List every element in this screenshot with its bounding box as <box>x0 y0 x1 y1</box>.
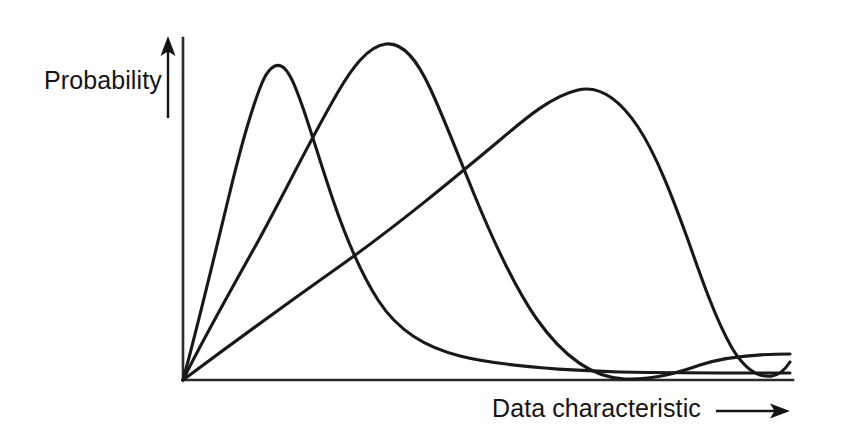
x-axis-label: Data characteristic <box>492 394 701 423</box>
arrow-up-icon <box>161 36 176 118</box>
figure-container: Probability Data characteristic <box>0 0 844 444</box>
curve-3-broad-late-peak <box>183 89 790 380</box>
arrow-right-icon <box>716 404 790 419</box>
curve-2-tall-middle-peak <box>183 44 790 380</box>
y-axis-label: Probability <box>44 66 162 95</box>
